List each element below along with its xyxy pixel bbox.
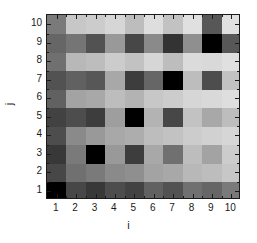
y-tick	[235, 24, 239, 25]
x-tick	[76, 194, 77, 198]
heatmap-cell	[163, 52, 183, 71]
heatmap-cell	[86, 126, 106, 145]
heatmap-cell	[125, 145, 145, 164]
y-tick-minor	[47, 108, 49, 109]
x-tick-minor	[202, 196, 203, 198]
heatmap-cell	[144, 34, 164, 53]
y-tick-label: 1	[14, 184, 42, 196]
heatmap-cell	[125, 34, 145, 53]
heatmap-cell	[163, 163, 183, 182]
y-tick	[47, 24, 51, 25]
heatmap-cell	[66, 71, 86, 90]
y-axis-title: j	[3, 89, 15, 119]
heatmap-cell	[125, 163, 145, 182]
heatmap-cell	[125, 126, 145, 145]
y-tick	[235, 172, 239, 173]
x-tick-minor	[125, 196, 126, 198]
x-tick	[134, 15, 135, 19]
y-tick-minor	[47, 52, 49, 53]
x-tick-minor	[202, 15, 203, 17]
heatmap-cell	[66, 108, 86, 127]
heatmap-cell	[125, 89, 145, 108]
y-tick-label: 9	[14, 36, 42, 48]
x-tick	[154, 194, 155, 198]
heatmap-cell	[66, 89, 86, 108]
y-tick	[47, 135, 51, 136]
y-tick	[47, 154, 51, 155]
x-tick-minor	[163, 196, 164, 198]
heatmap-cell	[125, 71, 145, 90]
y-tick-minor	[237, 163, 239, 164]
x-tick-label: 10	[217, 202, 243, 214]
y-tick	[235, 154, 239, 155]
heatmap-cell	[86, 108, 106, 127]
heatmap-cell	[105, 145, 125, 164]
y-tick-minor	[237, 145, 239, 146]
heatmap-cell	[202, 126, 222, 145]
y-tick	[235, 61, 239, 62]
heatmap-cell	[144, 145, 164, 164]
heatmap-cell	[86, 163, 106, 182]
y-tick-label: 5	[14, 110, 42, 122]
heatmap-cell	[202, 163, 222, 182]
y-tick-minor	[47, 126, 49, 127]
x-tick	[134, 194, 135, 198]
y-tick	[47, 98, 51, 99]
x-tick	[173, 194, 174, 198]
plot-area	[46, 14, 240, 199]
heatmap-cell	[202, 89, 222, 108]
x-tick	[115, 15, 116, 19]
x-tick-minor	[183, 196, 184, 198]
x-tick	[115, 194, 116, 198]
x-tick-minor	[105, 196, 106, 198]
y-tick-minor	[237, 182, 239, 183]
heatmap-cell	[86, 52, 106, 71]
heatmap-cell	[105, 126, 125, 145]
x-tick	[173, 15, 174, 19]
y-tick-minor	[237, 89, 239, 90]
heatmap-cell	[163, 145, 183, 164]
heatmap-cell	[163, 71, 183, 90]
heatmap-cell	[66, 126, 86, 145]
heatmap-cell	[163, 89, 183, 108]
y-tick	[47, 117, 51, 118]
y-tick-minor	[47, 163, 49, 164]
x-tick	[231, 15, 232, 19]
heatmap-cell	[183, 108, 203, 127]
heatmap-cell	[163, 126, 183, 145]
heatmap-cell	[202, 108, 222, 127]
x-tick-minor	[86, 15, 87, 17]
heatmap-cell	[105, 163, 125, 182]
heatmap-cell	[183, 89, 203, 108]
heatmap-cell	[183, 34, 203, 53]
heatmap-cell	[105, 34, 125, 53]
heatmap-cell	[202, 52, 222, 71]
heatmap-cell	[66, 145, 86, 164]
y-tick	[235, 135, 239, 136]
y-tick-label: 2	[14, 165, 42, 177]
x-tick	[57, 194, 58, 198]
heatmap-cell	[105, 89, 125, 108]
y-tick-minor	[47, 182, 49, 183]
y-tick	[235, 117, 239, 118]
x-tick-minor	[66, 15, 67, 17]
heatmap-cell	[202, 145, 222, 164]
y-tick-minor	[47, 89, 49, 90]
y-tick-label: 3	[14, 147, 42, 159]
heatmap-cell	[144, 89, 164, 108]
x-tick-minor	[105, 15, 106, 17]
y-tick	[47, 61, 51, 62]
heatmap-cell	[163, 108, 183, 127]
y-tick-minor	[47, 71, 49, 72]
heatmap-cell	[202, 34, 222, 53]
x-tick	[231, 194, 232, 198]
y-tick-label: 10	[14, 17, 42, 29]
heatmap-cell	[86, 34, 106, 53]
y-tick-minor	[237, 126, 239, 127]
y-tick-minor	[237, 108, 239, 109]
heatmap-cell	[105, 52, 125, 71]
y-tick-minor	[47, 34, 49, 35]
heatmap-cell	[86, 89, 106, 108]
heatmap-cell	[144, 126, 164, 145]
heatmap-cell	[183, 163, 203, 182]
